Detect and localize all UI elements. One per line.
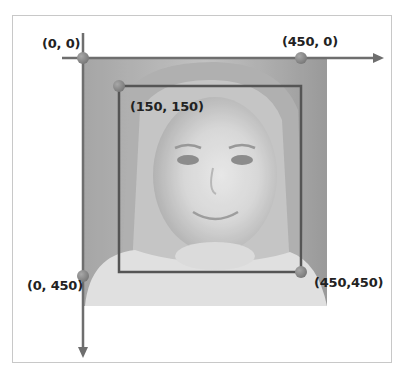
label-bbox-bottom-right: (450,450) <box>314 275 383 290</box>
point-top-right <box>295 52 307 64</box>
label-bbox-top-left: (150, 150) <box>130 99 204 114</box>
label-bottom-left: (0, 450) <box>27 278 83 293</box>
label-top-right: (450, 0) <box>282 34 338 49</box>
label-origin: (0, 0) <box>42 36 80 51</box>
point-bbox-top-left <box>113 80 125 92</box>
point-bbox-bottom-right <box>295 266 307 278</box>
coordinate-diagram <box>0 0 414 381</box>
point-origin <box>77 52 89 64</box>
